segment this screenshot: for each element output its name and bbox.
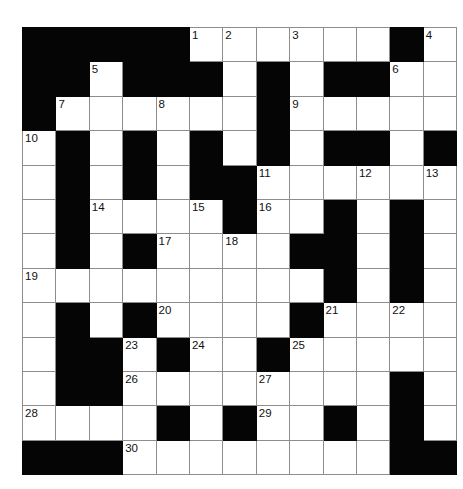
crossword-cell-open[interactable] xyxy=(423,406,456,440)
crossword-cell-numbered-15[interactable]: 15 xyxy=(189,199,222,233)
crossword-cell-open[interactable] xyxy=(323,28,356,62)
crossword-cell-open[interactable] xyxy=(356,199,389,233)
crossword-cell-numbered-19[interactable]: 19 xyxy=(23,268,56,302)
crossword-cell-numbered-14[interactable]: 14 xyxy=(89,199,122,233)
crossword-cell-open[interactable] xyxy=(223,337,256,371)
crossword-cell-numbered-9[interactable]: 9 xyxy=(290,96,323,130)
crossword-cell-open[interactable] xyxy=(356,268,389,302)
crossword-cell-open[interactable] xyxy=(189,371,222,405)
crossword-cell-open[interactable] xyxy=(356,371,389,405)
crossword-cell-open[interactable] xyxy=(323,440,356,474)
crossword-cell-open[interactable] xyxy=(223,440,256,474)
crossword-cell-open[interactable] xyxy=(356,440,389,474)
crossword-cell-numbered-6[interactable]: 6 xyxy=(390,62,423,96)
crossword-cell-open[interactable] xyxy=(156,199,189,233)
crossword-cell-open[interactable] xyxy=(256,440,289,474)
crossword-cell-open[interactable] xyxy=(290,406,323,440)
crossword-cell-open[interactable] xyxy=(423,234,456,268)
crossword-cell-open[interactable] xyxy=(323,371,356,405)
crossword-cell-open[interactable] xyxy=(356,337,389,371)
crossword-cell-open[interactable] xyxy=(423,62,456,96)
crossword-cell-open[interactable] xyxy=(256,28,289,62)
crossword-cell-open[interactable] xyxy=(156,268,189,302)
crossword-cell-open[interactable] xyxy=(56,268,89,302)
crossword-cell-open[interactable] xyxy=(189,96,222,130)
crossword-cell-open[interactable] xyxy=(23,303,56,337)
crossword-cell-numbered-26[interactable]: 26 xyxy=(123,371,156,405)
crossword-cell-numbered-7[interactable]: 7 xyxy=(56,96,89,130)
crossword-cell-open[interactable] xyxy=(423,268,456,302)
crossword-cell-open[interactable] xyxy=(256,303,289,337)
crossword-cell-open[interactable] xyxy=(390,96,423,130)
crossword-cell-open[interactable] xyxy=(423,337,456,371)
crossword-cell-open[interactable] xyxy=(89,131,122,165)
crossword-cell-open[interactable] xyxy=(390,165,423,199)
crossword-cell-open[interactable] xyxy=(323,165,356,199)
crossword-cell-open[interactable] xyxy=(56,406,89,440)
crossword-cell-open[interactable] xyxy=(23,165,56,199)
crossword-cell-open[interactable] xyxy=(223,303,256,337)
crossword-cell-open[interactable] xyxy=(189,234,222,268)
crossword-cell-open[interactable] xyxy=(290,371,323,405)
crossword-cell-numbered-3[interactable]: 3 xyxy=(290,28,323,62)
crossword-cell-open[interactable] xyxy=(189,406,222,440)
crossword-cell-open[interactable] xyxy=(256,268,289,302)
crossword-cell-open[interactable] xyxy=(223,96,256,130)
crossword-cell-open[interactable] xyxy=(423,303,456,337)
crossword-cell-open[interactable] xyxy=(290,268,323,302)
crossword-cell-open[interactable] xyxy=(89,268,122,302)
crossword-cell-numbered-22[interactable]: 22 xyxy=(390,303,423,337)
crossword-cell-open[interactable] xyxy=(89,165,122,199)
crossword-cell-numbered-18[interactable]: 18 xyxy=(223,234,256,268)
crossword-cell-open[interactable] xyxy=(123,268,156,302)
crossword-cell-numbered-27[interactable]: 27 xyxy=(256,371,289,405)
crossword-cell-numbered-4[interactable]: 4 xyxy=(423,28,456,62)
crossword-cell-open[interactable] xyxy=(223,371,256,405)
crossword-cell-open[interactable] xyxy=(356,96,389,130)
crossword-cell-open[interactable] xyxy=(390,337,423,371)
crossword-cell-open[interactable] xyxy=(23,199,56,233)
crossword-cell-numbered-20[interactable]: 20 xyxy=(156,303,189,337)
crossword-cell-numbered-11[interactable]: 11 xyxy=(256,165,289,199)
crossword-cell-open[interactable] xyxy=(290,440,323,474)
crossword-cell-open[interactable] xyxy=(123,406,156,440)
crossword-cell-open[interactable] xyxy=(256,234,289,268)
crossword-cell-open[interactable] xyxy=(89,303,122,337)
crossword-cell-open[interactable] xyxy=(23,337,56,371)
crossword-cell-open[interactable] xyxy=(156,371,189,405)
crossword-cell-numbered-13[interactable]: 13 xyxy=(423,165,456,199)
crossword-cell-open[interactable] xyxy=(290,165,323,199)
crossword-cell-open[interactable] xyxy=(156,131,189,165)
crossword-cell-open[interactable] xyxy=(223,131,256,165)
crossword-cell-numbered-5[interactable]: 5 xyxy=(89,62,122,96)
crossword-cell-open[interactable] xyxy=(323,337,356,371)
crossword-cell-open[interactable] xyxy=(356,303,389,337)
crossword-cell-open[interactable] xyxy=(356,406,389,440)
crossword-cell-open[interactable] xyxy=(123,96,156,130)
crossword-cell-open[interactable] xyxy=(23,234,56,268)
crossword-cell-numbered-16[interactable]: 16 xyxy=(256,199,289,233)
crossword-cell-numbered-29[interactable]: 29 xyxy=(256,406,289,440)
crossword-cell-open[interactable] xyxy=(290,131,323,165)
crossword-cell-numbered-24[interactable]: 24 xyxy=(189,337,222,371)
crossword-cell-open[interactable] xyxy=(123,199,156,233)
crossword-cell-open[interactable] xyxy=(189,440,222,474)
crossword-cell-open[interactable] xyxy=(290,62,323,96)
crossword-grid[interactable]: 1234567891011121314151617181920212223242… xyxy=(22,27,457,475)
crossword-cell-open[interactable] xyxy=(156,440,189,474)
crossword-cell-open[interactable] xyxy=(189,268,222,302)
crossword-cell-open[interactable] xyxy=(23,371,56,405)
crossword-cell-open[interactable] xyxy=(390,131,423,165)
crossword-cell-open[interactable] xyxy=(156,165,189,199)
crossword-cell-open[interactable] xyxy=(423,199,456,233)
crossword-cell-numbered-2[interactable]: 2 xyxy=(223,28,256,62)
crossword-cell-open[interactable] xyxy=(356,234,389,268)
crossword-cell-open[interactable] xyxy=(223,268,256,302)
crossword-cell-open[interactable] xyxy=(423,96,456,130)
crossword-cell-numbered-17[interactable]: 17 xyxy=(156,234,189,268)
crossword-cell-open[interactable] xyxy=(356,28,389,62)
crossword-cell-open[interactable] xyxy=(323,96,356,130)
crossword-cell-open[interactable] xyxy=(189,303,222,337)
crossword-cell-numbered-12[interactable]: 12 xyxy=(356,165,389,199)
crossword-cell-open[interactable] xyxy=(423,371,456,405)
